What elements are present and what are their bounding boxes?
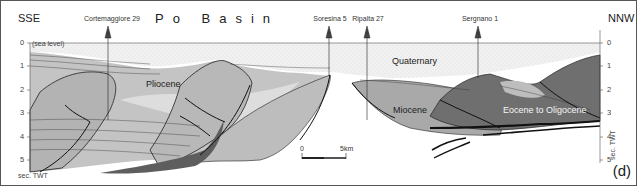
- left-depth-axis: [27, 43, 30, 172]
- left-tick-5: 5: [20, 155, 24, 164]
- left-tick-1: 1: [20, 61, 24, 70]
- right-tick-1: 1: [607, 61, 611, 70]
- formation-quaternary: Quaternary: [392, 56, 437, 66]
- left-tick-3: 3: [20, 108, 24, 117]
- right-axis-unit: sec. TWT: [609, 130, 616, 160]
- well-label-sergnano: Sergnano 1: [462, 15, 498, 22]
- left-tick-0: 0: [20, 38, 24, 47]
- deep-fault-1: [432, 138, 466, 150]
- derrick-icon: [475, 26, 481, 38]
- cross-section: [0, 0, 637, 186]
- direction-left-label: SSE: [18, 12, 40, 24]
- derrick-icon: [105, 26, 111, 38]
- left-tick-4: 4: [20, 132, 24, 141]
- right-tick-3: 3: [607, 108, 611, 117]
- right-depth-axis: [600, 30, 603, 163]
- right-tick-2: 2: [607, 85, 611, 94]
- right-tick-0: 0: [607, 38, 611, 47]
- formation-eocene-oligocene: Eocene to Oligocene: [503, 105, 587, 115]
- left-axis-unit: sec. TWT: [18, 172, 48, 179]
- sea-level-label: (sea level): [32, 40, 64, 47]
- derrick-icon: [326, 26, 332, 38]
- scale-bar: [302, 153, 346, 159]
- scale-bar-end: 5km: [340, 145, 353, 152]
- left-tick-2: 2: [20, 85, 24, 94]
- figure-title: Po Basin: [155, 11, 279, 26]
- derrick-icon: [364, 26, 370, 38]
- deep-fault-2: [434, 142, 470, 158]
- formation-miocene: Miocene: [393, 105, 427, 115]
- scale-bar-start: 0: [300, 145, 304, 152]
- formation-pliocene: Pliocene: [146, 79, 181, 89]
- well-label-soresina: Soresina 5: [313, 15, 346, 22]
- well-label-cortemaggiore: Cortemaggiore 29: [84, 15, 140, 22]
- panel-label: (d): [613, 162, 631, 179]
- well-label-ripalta: Ripalta 27: [352, 15, 384, 22]
- direction-right-label: NNW: [608, 12, 634, 24]
